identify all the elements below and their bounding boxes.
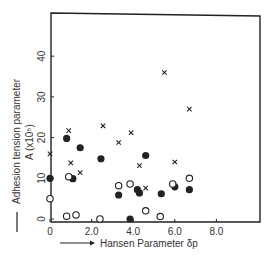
- x-axis-title: Hansen Parameter δp: [100, 238, 198, 249]
- y-axis-title-line1: Adhesion tension parameter: [11, 78, 22, 204]
- cross-point: [67, 128, 71, 132]
- x-tick-label: 8.0: [209, 226, 223, 237]
- y-tick-label: 30: [36, 91, 47, 103]
- data-points: [46, 70, 193, 222]
- open-circle-point: [63, 213, 69, 219]
- x-axis-title-group: Hansen Parameter δp: [60, 238, 198, 249]
- filled-circle-point: [126, 215, 133, 222]
- cross-point: [129, 131, 133, 135]
- cross-point: [101, 124, 105, 128]
- open-circle-point: [170, 181, 176, 187]
- cross-point: [137, 163, 141, 167]
- y-tick-label: 40: [36, 50, 47, 62]
- open-circle-point: [186, 175, 192, 181]
- filled-circle-point: [115, 191, 122, 198]
- x-tick-label: 0: [47, 226, 53, 237]
- cross-point: [187, 107, 191, 111]
- y-tick-label: 10: [36, 172, 47, 184]
- open-circle-point: [115, 182, 121, 188]
- cross-point: [69, 161, 73, 165]
- y-tick-label: 20: [36, 132, 47, 144]
- cross-point: [143, 186, 147, 190]
- plot-frame: [51, 13, 260, 222]
- cross-point: [162, 70, 166, 74]
- open-circle-point: [47, 195, 53, 201]
- filled-circle-point: [158, 190, 165, 197]
- x-tick-label: 6.0: [168, 226, 182, 237]
- filled-circle-point: [186, 186, 193, 193]
- open-circle-point: [142, 208, 148, 214]
- filled-circle-point: [97, 155, 104, 162]
- filled-circle-point: [136, 189, 143, 196]
- open-circle-point: [66, 173, 72, 179]
- x-tick-label: 2.0: [85, 226, 99, 237]
- x-tick-label: 4.0: [126, 226, 140, 237]
- y-axis-title-line2: A (x10⁵): [24, 124, 35, 160]
- open-circle-point: [97, 216, 103, 222]
- open-circle-point: [127, 181, 133, 187]
- plot-border: [51, 13, 260, 222]
- y-tick-label: 0: [36, 216, 47, 222]
- cross-point: [78, 170, 82, 174]
- scatter-chart: 02.04.06.08.0 010203040 Hansen Parameter…: [0, 0, 268, 258]
- open-circle-point: [73, 212, 79, 218]
- x-axis-arrow-head: [90, 241, 95, 246]
- filled-circle-point: [46, 175, 53, 182]
- filled-circle-point: [77, 144, 84, 151]
- cross-point: [173, 160, 177, 164]
- open-circle-point: [157, 213, 163, 219]
- cross-point: [116, 140, 120, 144]
- filled-circle-point: [63, 135, 70, 142]
- filled-circle-point: [142, 152, 149, 159]
- y-axis-title-group: Adhesion tension parameter A (x10⁵): [11, 78, 35, 232]
